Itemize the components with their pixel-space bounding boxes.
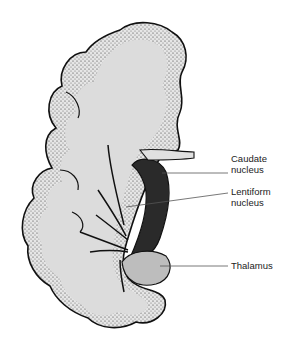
label-caudate-nucleus: Caudate nucleus [231, 153, 267, 175]
label-thalamus: Thalamus [231, 260, 273, 271]
label-line: Thalamus [231, 260, 273, 271]
label-line: nucleus [231, 164, 267, 175]
label-line: Caudate [231, 153, 267, 164]
label-line: nucleus [231, 197, 271, 208]
label-lentiform-nucleus: Lentiform nucleus [231, 186, 271, 208]
corpus-callosum [140, 149, 194, 160]
label-line: Lentiform [231, 186, 271, 197]
